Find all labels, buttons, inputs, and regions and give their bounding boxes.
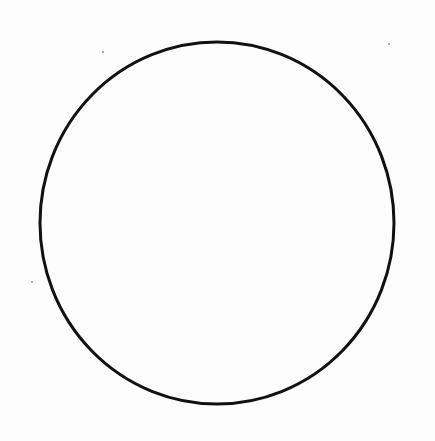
diagram-canvas <box>0 0 435 441</box>
circle-outline <box>40 42 394 404</box>
scan-speck <box>31 281 33 283</box>
scan-speck <box>388 43 390 45</box>
scan-speck <box>102 51 104 53</box>
circle-figure <box>0 0 435 441</box>
